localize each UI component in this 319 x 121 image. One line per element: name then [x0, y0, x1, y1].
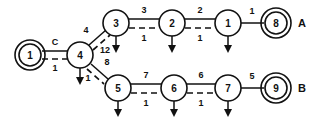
edge-bottom-label: 1	[52, 63, 57, 73]
group-label-b: B	[298, 82, 306, 94]
graph-diagram: C 1 4 12 3 1 2 1	[0, 0, 319, 121]
group-label-a: A	[298, 17, 306, 29]
node-1-start[interactable]: 1	[15, 40, 45, 70]
output-arrow-node-4	[76, 68, 84, 85]
node-9-end-b[interactable]: 9	[261, 73, 291, 103]
graph-canvas: C 1 4 12 3 1 2 1	[0, 0, 319, 121]
node-4[interactable]: 4	[67, 42, 93, 68]
edge-top-label: C	[52, 37, 59, 47]
output-arrow-node-2	[168, 36, 176, 53]
output-arrow-node-6	[170, 101, 178, 117]
edge-bottom-label: 12	[100, 45, 110, 55]
node-label: 6	[171, 83, 177, 94]
output-arrow-node-3	[112, 36, 120, 53]
edge-top-label: 1	[249, 6, 254, 16]
arrow-head-icon	[224, 45, 232, 53]
edge-top-label: 7	[143, 70, 148, 80]
edge-top-label: 8	[104, 57, 109, 67]
edge-bottom-label: 1	[143, 98, 148, 108]
output-arrow-node-1	[224, 36, 232, 53]
node-label: 2	[169, 18, 175, 29]
node-7[interactable]: 7	[215, 75, 241, 101]
edge-bottom-label: 1	[197, 33, 202, 43]
edge-bottom-label: 1	[141, 33, 146, 43]
node-label: 8	[273, 18, 279, 29]
node-label: 9	[273, 83, 279, 94]
arrow-head-icon	[168, 45, 176, 53]
edge-solid-line	[89, 30, 106, 45]
edge-top-label: 3	[141, 5, 146, 15]
edge-top-label: 4	[83, 25, 88, 35]
node-8-end-a[interactable]: 8	[261, 8, 291, 38]
edge-6-to-7: 6 1	[187, 70, 215, 108]
arrow-head-icon	[224, 109, 232, 117]
output-arrow-node-7	[224, 101, 232, 117]
node-label: 7	[225, 83, 231, 94]
edge-5-to-6: 7 1	[131, 70, 161, 108]
edge-3-to-2: 3 1	[129, 5, 159, 43]
edge-bottom-label: 1	[198, 98, 203, 108]
edge-top-label: 6	[198, 70, 203, 80]
edge-top-label: 5	[249, 71, 254, 81]
node-label: 3	[113, 18, 119, 29]
node-1-row-a[interactable]: 1	[215, 10, 241, 36]
edge-2-to-1: 2 1	[185, 5, 215, 43]
output-arrow-node-5	[114, 101, 122, 117]
edge-top-label: 2	[197, 5, 202, 15]
node-3[interactable]: 3	[103, 10, 129, 36]
node-label: 1	[27, 50, 33, 61]
node-label: 5	[115, 83, 121, 94]
arrow-head-icon	[170, 109, 178, 117]
group-labels-layer: A B	[298, 17, 306, 94]
arrow-head-icon	[76, 77, 84, 85]
node-6[interactable]: 6	[161, 75, 187, 101]
node-5[interactable]: 5	[105, 75, 131, 101]
node-2[interactable]: 2	[159, 10, 185, 36]
edge-bottom-label: 1	[85, 73, 90, 83]
arrow-head-icon	[112, 45, 120, 53]
node-label: 1	[225, 18, 231, 29]
node-label: 4	[77, 50, 83, 61]
arrow-head-icon	[114, 109, 122, 117]
